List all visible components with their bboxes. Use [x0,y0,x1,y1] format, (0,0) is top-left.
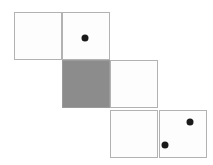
cell-bottom-left [110,110,158,158]
cell-middle-right [110,60,158,108]
figure-canvas [0,0,213,165]
cell-top-left [14,12,62,60]
cell-middle-left [62,60,110,108]
dot-marker [162,142,169,149]
dot-marker [82,35,89,42]
cell-bottom-right [159,110,207,158]
dot-marker [187,119,194,126]
